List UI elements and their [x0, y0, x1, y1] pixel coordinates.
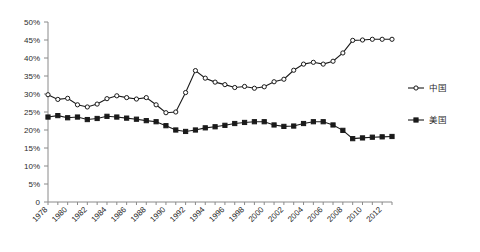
data-point-usa: [390, 134, 394, 138]
y-tick-label: 25%: [24, 108, 40, 117]
data-point-usa: [311, 120, 315, 124]
data-point-china: [154, 103, 158, 107]
data-point-usa: [360, 136, 364, 140]
data-point-usa: [282, 124, 286, 128]
data-point-usa: [125, 116, 129, 120]
data-point-china: [85, 105, 89, 109]
y-tick-label: 45%: [24, 36, 40, 45]
x-tick-label: 2012: [365, 205, 384, 224]
legend-label-usa: 美国: [429, 115, 447, 125]
data-point-usa: [341, 128, 345, 132]
data-point-china: [174, 110, 178, 114]
data-point-usa: [203, 126, 207, 130]
data-point-china: [390, 37, 394, 41]
data-point-usa: [331, 123, 335, 127]
data-point-usa: [272, 123, 276, 127]
data-point-china: [95, 102, 99, 106]
data-point-china: [105, 97, 109, 101]
x-tick-label: 1996: [207, 205, 226, 224]
x-tick-label: 1988: [129, 205, 148, 224]
y-tick-label: 0: [36, 198, 41, 207]
data-point-usa: [46, 115, 50, 119]
data-point-china: [321, 62, 325, 66]
data-point-usa: [213, 125, 217, 129]
y-tick-label: 35%: [24, 72, 40, 81]
data-point-china: [272, 80, 276, 84]
y-tick-label: 50%: [24, 18, 40, 27]
data-point-china: [380, 37, 384, 41]
y-tick-label: 5%: [28, 180, 40, 189]
x-tick-label: 1982: [70, 205, 89, 224]
data-point-usa: [321, 120, 325, 124]
legend-marker-usa: [414, 118, 418, 122]
x-tick-label: 2004: [286, 205, 305, 224]
data-point-usa: [95, 116, 99, 120]
line-chart: 05%10%15%20%25%30%35%40%45%50%1978198019…: [0, 0, 480, 252]
data-point-china: [233, 85, 237, 89]
data-point-china: [56, 97, 60, 101]
data-point-usa: [56, 114, 60, 118]
x-tick-label: 1998: [227, 205, 246, 224]
x-tick-label: 1978: [30, 205, 49, 224]
data-point-china: [213, 80, 217, 84]
data-point-usa: [144, 119, 148, 123]
legend-marker-china: [414, 86, 418, 90]
chart-container: 05%10%15%20%25%30%35%40%45%50%1978198019…: [0, 0, 480, 252]
data-point-china: [311, 60, 315, 64]
data-point-china: [262, 85, 266, 89]
data-point-usa: [262, 120, 266, 124]
data-point-china: [134, 97, 138, 101]
data-point-china: [223, 83, 227, 87]
data-point-china: [46, 93, 50, 97]
data-point-china: [341, 51, 345, 55]
data-point-china: [242, 84, 246, 88]
data-point-usa: [66, 116, 70, 120]
data-point-usa: [154, 120, 158, 124]
data-point-usa: [223, 123, 227, 127]
data-point-china: [370, 37, 374, 41]
series-line-china: [48, 39, 392, 112]
data-point-china: [351, 38, 355, 42]
data-point-usa: [105, 114, 109, 118]
y-tick-label: 20%: [24, 126, 40, 135]
data-point-usa: [301, 121, 305, 125]
data-point-usa: [351, 137, 355, 141]
x-tick-label: 2000: [247, 205, 266, 224]
y-tick-label: 15%: [24, 144, 40, 153]
data-point-china: [360, 38, 364, 42]
data-point-china: [164, 111, 168, 115]
data-point-usa: [115, 115, 119, 119]
data-point-usa: [242, 120, 246, 124]
data-point-china: [252, 86, 256, 90]
data-point-china: [144, 96, 148, 100]
x-tick-label: 1990: [148, 205, 167, 224]
data-point-usa: [184, 129, 188, 133]
data-point-usa: [164, 124, 168, 128]
data-point-china: [331, 59, 335, 63]
data-point-china: [75, 103, 79, 107]
data-point-china: [125, 96, 129, 100]
data-point-usa: [370, 135, 374, 139]
data-point-usa: [174, 128, 178, 132]
y-tick-label: 30%: [24, 90, 40, 99]
y-tick-label: 10%: [24, 162, 40, 171]
legend-label-china: 中国: [429, 83, 447, 93]
data-point-china: [301, 62, 305, 66]
x-tick-label: 2008: [325, 205, 344, 224]
data-point-china: [203, 76, 207, 80]
x-tick-label: 1984: [89, 205, 108, 224]
y-tick-label: 40%: [24, 54, 40, 63]
data-point-china: [66, 96, 70, 100]
data-point-china: [184, 90, 188, 94]
x-tick-label: 1994: [188, 205, 207, 224]
x-tick-label: 2002: [266, 205, 285, 224]
data-point-usa: [134, 117, 138, 121]
x-tick-label: 1992: [168, 205, 187, 224]
data-point-china: [193, 69, 197, 73]
data-point-usa: [233, 121, 237, 125]
data-point-china: [115, 94, 119, 98]
data-point-usa: [252, 120, 256, 124]
x-tick-label: 2006: [306, 205, 325, 224]
data-point-usa: [380, 135, 384, 139]
data-point-china: [292, 68, 296, 72]
